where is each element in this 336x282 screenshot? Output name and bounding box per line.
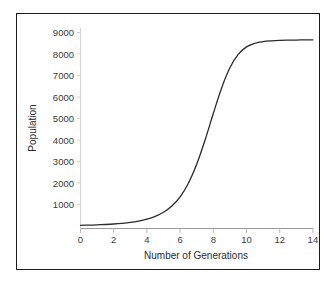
axes-group xyxy=(77,28,313,233)
y-tick-label: 8000 xyxy=(53,49,74,60)
x-tick-label: 14 xyxy=(308,234,319,245)
x-tick-label: 2 xyxy=(111,234,116,245)
population-growth-chart: 9000 8000 7000 6000 5000 4000 3000 2000 … xyxy=(0,0,336,282)
figure-root: 9000 8000 7000 6000 5000 4000 3000 2000 … xyxy=(0,0,336,282)
x-tick-label: 8 xyxy=(211,234,216,245)
y-axis-tick-labels: 9000 8000 7000 6000 5000 4000 3000 2000 … xyxy=(53,27,74,210)
x-tick-label: 4 xyxy=(144,234,149,245)
y-tick-label: 7000 xyxy=(53,70,74,81)
x-axis-title: Number of Generations xyxy=(144,250,248,261)
x-tick-marks xyxy=(81,229,313,234)
y-axis-title: Population xyxy=(27,104,38,151)
y-tick-label: 6000 xyxy=(53,92,74,103)
population-data-curve xyxy=(81,40,313,226)
y-tick-label: 4000 xyxy=(53,135,74,146)
y-tick-marks xyxy=(77,33,81,205)
x-axis-tick-labels: 0 2 4 6 8 10 12 14 xyxy=(78,234,318,245)
y-tick-label: 9000 xyxy=(53,27,74,38)
y-tick-label: 1000 xyxy=(53,199,74,210)
x-tick-label: 12 xyxy=(274,234,285,245)
x-tick-label: 0 xyxy=(78,234,83,245)
y-tick-label: 2000 xyxy=(53,178,74,189)
y-tick-label: 5000 xyxy=(53,113,74,124)
y-tick-label: 3000 xyxy=(53,156,74,167)
x-tick-label: 6 xyxy=(177,234,182,245)
x-tick-label: 10 xyxy=(241,234,252,245)
